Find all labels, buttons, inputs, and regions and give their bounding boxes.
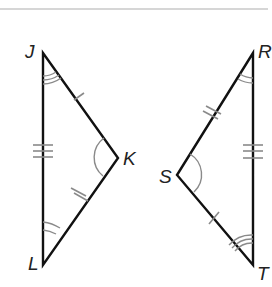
vertex-label-k: K bbox=[123, 148, 137, 169]
triangle-rst-sides bbox=[177, 53, 253, 265]
angle-mark-t bbox=[229, 235, 253, 251]
angle-mark-s bbox=[190, 154, 202, 192]
tick-mark-kl bbox=[71, 188, 88, 201]
triangle-jkl: J K L bbox=[24, 41, 137, 274]
angle-mark-k bbox=[94, 138, 104, 176]
vertex-label-l: L bbox=[28, 253, 39, 274]
vertex-label-r: R bbox=[258, 41, 272, 62]
vertex-label-s: S bbox=[159, 166, 172, 187]
diagram-canvas: J K L bbox=[0, 0, 272, 287]
triangle-rst: R S T bbox=[159, 41, 272, 284]
vertex-label-j: J bbox=[24, 41, 35, 62]
angle-mark-l bbox=[43, 222, 60, 234]
vertex-label-t: T bbox=[257, 263, 270, 284]
